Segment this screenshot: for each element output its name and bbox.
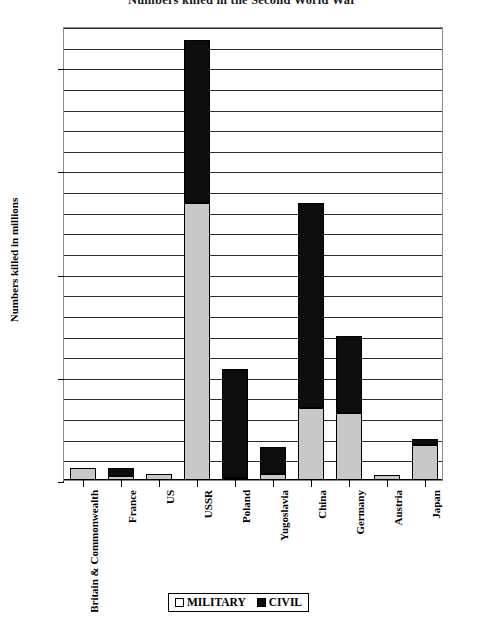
x-tick-mark [197,480,198,487]
gridline [64,255,442,256]
gridline [64,276,442,277]
gridline [64,172,442,173]
y-tick-mark [58,69,64,70]
x-tick-mark [121,480,122,487]
gridline [64,131,442,132]
bar-segment-civil[interactable] [222,369,248,478]
x-tick-label: France [126,486,138,616]
x-tick-mark [159,480,160,487]
bar-segment-civil[interactable] [412,439,438,445]
bar-segment-military[interactable] [298,408,324,480]
x-tick-label: China [316,486,328,616]
legend-label: MILITARY [187,596,246,608]
legend-swatch-military-icon [175,598,184,607]
x-tick-mark [235,480,236,487]
x-tick-mark [387,480,388,487]
y-tick-mark [58,276,64,277]
x-tick-mark [83,480,84,487]
gridline [64,214,442,215]
gridline [64,69,442,70]
y-tick-mark [58,172,64,173]
gridline [64,28,442,29]
gridline [64,193,442,194]
bar-segment-civil[interactable] [260,447,286,474]
gridline [64,461,442,462]
y-tick-mark [58,379,64,380]
x-tick-label: Japan [430,486,442,616]
legend-item[interactable]: CIVIL [257,596,302,608]
bar-segment-military[interactable] [184,203,210,480]
gridline [64,296,442,297]
bar-segment-civil[interactable] [108,468,134,476]
gridline [64,49,442,50]
x-tick-mark [425,480,426,487]
legend-item[interactable]: MILITARY [175,596,246,608]
y-axis-title: Numbers killed in millions [8,0,20,170]
plot-area: 05101520 [63,27,443,481]
legend-swatch-civil-icon [257,598,266,607]
x-tick-mark [311,480,312,487]
gridline [64,379,442,380]
bar-segment-civil[interactable] [336,336,362,413]
gridline [64,441,442,442]
bar-segment-civil[interactable] [298,203,324,407]
gridline [64,420,442,421]
gridline [64,399,442,400]
gridline [64,152,442,153]
gridline [64,234,442,235]
bar-segment-military[interactable] [412,445,438,480]
gridline [64,317,442,318]
y-tick-mark [58,482,64,483]
x-tick-mark [349,480,350,487]
gridline [64,90,442,91]
x-tick-mark [273,480,274,487]
chart-legend: MILITARYCIVIL [168,593,309,612]
bar-segment-military[interactable] [336,413,362,480]
x-tick-label: Britain & Commonwealth [88,486,100,616]
bar-segment-civil[interactable] [184,40,210,203]
x-tick-label: Germany [354,486,366,616]
x-axis-baseline [64,479,442,480]
gridline [64,111,442,112]
y-axis-title-label: Numbers killed in millions [8,170,20,350]
chart-title: Numbers killed in the Second World War [0,0,484,8]
gridline [64,358,442,359]
bar-chart-figure: Numbers killed in the Second World War N… [0,0,484,638]
legend-label: CIVIL [269,596,302,608]
gridline [64,338,442,339]
x-tick-label: Austria [392,486,404,616]
